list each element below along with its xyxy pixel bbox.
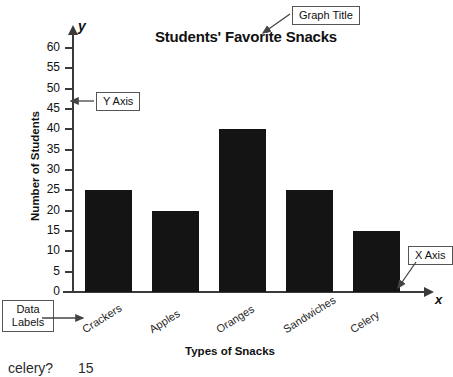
y-axis-arrow-icon bbox=[68, 25, 78, 35]
callout-y-axis: Y Axis bbox=[96, 92, 140, 111]
y-axis-tick bbox=[65, 210, 73, 212]
callout-data-labels: Data Labels bbox=[2, 300, 54, 332]
y-axis-tick bbox=[65, 67, 73, 69]
y-axis-tick bbox=[65, 108, 73, 110]
bar-crackers bbox=[85, 190, 132, 292]
bar-apples bbox=[152, 211, 199, 292]
cut-off-question-text: celery? bbox=[8, 360, 53, 376]
y-axis-line bbox=[72, 34, 74, 293]
y-axis-tick bbox=[65, 271, 73, 273]
x-axis-label-crackers: Crackers bbox=[80, 302, 124, 336]
y-axis-tick bbox=[65, 291, 73, 293]
y-axis-tick bbox=[65, 47, 73, 49]
y-axis-tick-label: 10 bbox=[34, 245, 60, 255]
y-axis-tick bbox=[65, 230, 73, 232]
y-axis-tick bbox=[65, 189, 73, 191]
cut-off-answer-text: 15 bbox=[78, 360, 94, 376]
x-axis-label-celery: Celery bbox=[348, 308, 381, 335]
x-axis-arrow-icon bbox=[424, 287, 434, 297]
bar-oranges bbox=[219, 129, 266, 292]
y-axis-title: Number of Students bbox=[29, 91, 41, 241]
callout-data-labels-line2: Labels bbox=[9, 316, 47, 329]
y-axis-tick-label: 5 bbox=[34, 266, 60, 276]
callout-graph-title: Graph Title bbox=[292, 6, 360, 25]
bar-celery bbox=[353, 231, 400, 292]
y-axis-tick bbox=[65, 250, 73, 252]
callout-data-labels-line1: Data bbox=[9, 303, 47, 316]
y-axis-tick bbox=[65, 88, 73, 90]
y-axis-tick-label: 60 bbox=[34, 42, 60, 52]
y-axis-tick-label: 55 bbox=[34, 62, 60, 72]
x-axis-label-oranges: Oranges bbox=[214, 303, 256, 336]
bar-sandwiches bbox=[286, 190, 333, 292]
y-axis-letter: y bbox=[78, 18, 86, 34]
x-axis-label-apples: Apples bbox=[147, 307, 182, 335]
chart-title: Students' Favorite Snacks bbox=[140, 28, 352, 45]
x-axis-label-sandwiches: Sandwiches bbox=[281, 294, 338, 336]
x-axis-letter: x bbox=[435, 292, 442, 307]
y-axis-tick bbox=[65, 149, 73, 151]
worksheet-page: Students' Favorite Snacks y x 0510152025… bbox=[0, 0, 453, 377]
y-axis-tick bbox=[65, 169, 73, 171]
y-axis-tick bbox=[65, 128, 73, 130]
x-axis-title: Types of Snacks bbox=[150, 345, 310, 357]
callout-x-axis: X Axis bbox=[408, 246, 453, 265]
y-axis-tick-label: 0 bbox=[34, 286, 60, 296]
x-axis-leader-arrow bbox=[398, 262, 416, 288]
